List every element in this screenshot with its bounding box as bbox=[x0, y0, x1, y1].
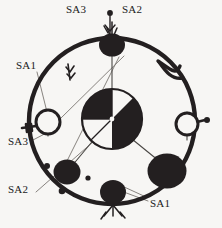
node-bottom bbox=[100, 180, 126, 219]
node-top bbox=[99, 22, 125, 57]
node-bottom-body bbox=[100, 180, 126, 204]
speckle-dot bbox=[107, 10, 113, 16]
center-hub-dot bbox=[110, 117, 115, 122]
label-sa2-bottom: SA2 bbox=[8, 184, 28, 195]
node-right bbox=[176, 113, 210, 135]
label-sa3-top: SA3 bbox=[66, 4, 86, 15]
arc-tick-icon bbox=[66, 64, 75, 80]
speckle-dot bbox=[59, 188, 66, 195]
stub-dot-icon bbox=[204, 117, 210, 123]
label-sa3-left: SA3 bbox=[8, 136, 28, 147]
speckle-dot bbox=[85, 175, 90, 180]
label-sa2-top: SA2 bbox=[122, 4, 142, 15]
label-sa1-left: SA1 bbox=[16, 60, 36, 71]
diagram-canvas: SA3 SA2 SA1 SA3 SA2 SA1 bbox=[0, 0, 222, 228]
node-lower-right bbox=[148, 154, 187, 189]
center-quadrant-circle bbox=[82, 89, 142, 149]
node-top-body bbox=[99, 34, 125, 57]
node-right-body bbox=[176, 113, 198, 135]
node-lower-left bbox=[54, 160, 81, 185]
label-sa1-bottom: SA1 bbox=[150, 198, 170, 209]
diagram-vector-layer bbox=[0, 0, 222, 228]
center-quadrant-lower-right bbox=[112, 119, 142, 149]
node-left-body bbox=[36, 110, 60, 134]
speckle-dot bbox=[44, 163, 50, 169]
